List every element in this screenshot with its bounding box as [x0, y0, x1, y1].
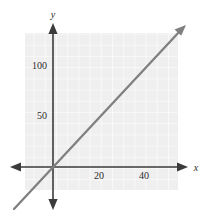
- coordinate-plane-graph: 100 50 20 40 y x: [0, 0, 205, 216]
- y-axis-arrow-up: [48, 23, 57, 34]
- y-tick-label-50: 50: [37, 110, 47, 121]
- chart-figure: 100 50 20 40 y x: [0, 0, 205, 216]
- y-axis-label: y: [50, 9, 56, 20]
- y-tick-label-100: 100: [32, 60, 47, 71]
- y-axis-arrow-down: [48, 199, 57, 210]
- x-axis-arrow-left: [10, 162, 21, 171]
- x-tick-label-20: 20: [94, 170, 104, 181]
- x-tick-label-40: 40: [139, 170, 149, 181]
- x-axis-arrow-right: [177, 162, 188, 171]
- x-axis-label: x: [193, 162, 199, 173]
